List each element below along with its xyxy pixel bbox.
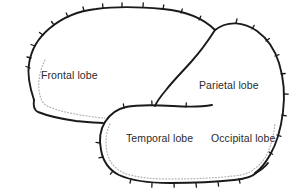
preoccipital-notch <box>256 163 268 173</box>
brain-illustration <box>0 0 296 195</box>
frontal-inferior-margin <box>34 100 103 123</box>
label-temporal-lobe: Temporal lobe <box>126 133 193 144</box>
label-frontal-lobe: Frontal lobe <box>41 70 98 81</box>
central-sulcus <box>155 30 215 106</box>
brain-lobes-diagram: Frontal lobe Parietal lobe Temporal lobe… <box>0 0 296 195</box>
label-occipital-lobe: Occipital lobe <box>211 133 275 144</box>
sulci-tick-marks <box>26 3 288 187</box>
label-parietal-lobe: Parietal lobe <box>199 80 259 91</box>
lateral-fissure <box>105 105 212 122</box>
